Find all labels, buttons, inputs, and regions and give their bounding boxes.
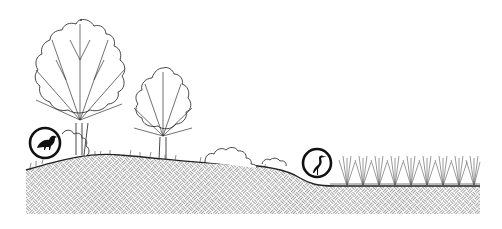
reed-clump [435,156,451,186]
reed-clump [466,156,480,186]
reed-bed [339,156,480,186]
heron-badge [303,149,331,177]
reed-clump [419,156,435,186]
reed-clump [339,156,355,186]
reed-clump [355,156,371,186]
medium-tree [134,67,192,160]
landscape-cross-section [0,0,502,229]
reed-clump [371,156,387,186]
reed-clump [451,156,467,186]
shrub-left [62,130,89,156]
reed-clump [387,156,403,186]
songbird-badge [30,128,60,158]
reed-clump [403,156,419,186]
